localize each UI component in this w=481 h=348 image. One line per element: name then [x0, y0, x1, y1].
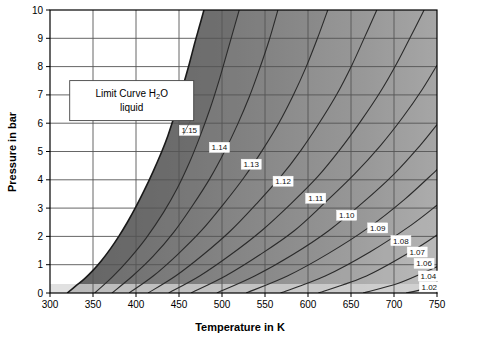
x-tick-label: 450: [171, 299, 188, 310]
contour-label-1.09: 1.09: [368, 223, 388, 233]
svg-text:1.08: 1.08: [393, 237, 409, 246]
x-tick-label: 400: [128, 299, 145, 310]
x-tick-label: 300: [42, 299, 59, 310]
x-tick-label: 600: [300, 299, 317, 310]
svg-text:1.07: 1.07: [409, 248, 425, 257]
y-tick-label: 5: [37, 146, 43, 157]
svg-text:1.10: 1.10: [339, 211, 355, 220]
contour-label-1.12: 1.12: [273, 176, 293, 186]
y-axis-label: Pressure in bar: [6, 111, 18, 192]
x-axis-label: Temperature in K: [195, 321, 285, 333]
x-tick-label: 350: [85, 299, 102, 310]
contour-label-1.11: 1.11: [306, 193, 326, 203]
y-tick-label: 1: [37, 259, 43, 270]
y-tick-label: 8: [37, 61, 43, 72]
contour-label-1.06: 1.06: [414, 258, 434, 268]
svg-text:1.11: 1.11: [308, 194, 324, 203]
svg-text:1.02: 1.02: [422, 283, 438, 292]
svg-text:1.09: 1.09: [370, 224, 386, 233]
y-tick-label: 4: [37, 174, 43, 185]
contour-label-1.10: 1.10: [337, 210, 357, 220]
y-tick-label: 6: [37, 118, 43, 129]
y-tick-label: 3: [37, 203, 43, 214]
x-tick-label: 700: [386, 299, 403, 310]
x-tick-label: 750: [429, 299, 446, 310]
svg-text:1.12: 1.12: [275, 177, 291, 186]
svg-text:1.04: 1.04: [421, 272, 437, 281]
contour-label-1.14: 1.14: [209, 142, 229, 152]
y-tick-label: 7: [37, 89, 43, 100]
svg-text:1.13: 1.13: [243, 160, 259, 169]
contour-label-1.04: 1.04: [418, 271, 438, 281]
y-tick-label: 10: [32, 5, 44, 16]
svg-text:1.14: 1.14: [212, 143, 228, 152]
contour-label-1.13: 1.13: [241, 159, 261, 169]
svg-text:1.06: 1.06: [416, 259, 432, 268]
contour-label-1.08: 1.08: [391, 236, 411, 246]
contour-label-1.15: 1.15: [179, 125, 199, 135]
y-tick-label: 2: [37, 231, 43, 242]
pressure-temperature-chart: 3003504004505005506006507007500123456789…: [0, 0, 481, 348]
annotation-box: [70, 81, 194, 121]
x-tick-label: 500: [214, 299, 231, 310]
x-tick-label: 650: [343, 299, 360, 310]
annotation-line-2: liquid: [120, 102, 143, 113]
contour-label-1.02: 1.02: [419, 282, 439, 292]
chart-figure: 3003504004505005506006507007500123456789…: [0, 0, 481, 348]
contour-label-1.07: 1.07: [407, 247, 427, 257]
y-tick-label: 0: [37, 288, 43, 299]
y-tick-label: 9: [37, 33, 43, 44]
x-tick-label: 550: [257, 299, 274, 310]
